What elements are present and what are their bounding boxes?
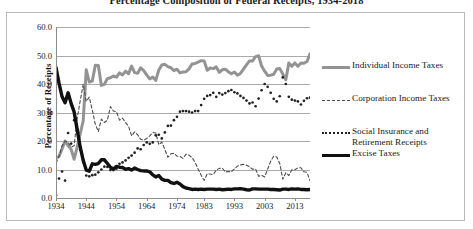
series-social-insurance-and-retirement-receipts bbox=[56, 76, 310, 196]
legend-line-solid-gray-icon bbox=[322, 66, 350, 69]
x-tick-label: 1944 bbox=[69, 201, 103, 211]
y-axis-line bbox=[56, 27, 57, 199]
x-tick-label: 1983 bbox=[187, 201, 221, 211]
legend-key-icon bbox=[322, 149, 352, 161]
legend-item[interactable]: Social Insurance and Retirement Receipts bbox=[322, 126, 429, 147]
y-tick-label: 30.0 bbox=[8, 109, 52, 117]
legend-label: Corporation Income Taxes bbox=[352, 93, 450, 104]
legend-line-dotted-icon bbox=[322, 132, 350, 134]
plot-area bbox=[56, 27, 310, 198]
series-excise-taxes bbox=[56, 67, 310, 190]
chart-legend: Individual Income TaxesCorporation Incom… bbox=[322, 60, 462, 170]
legend-label: Social Insurance and Retirement Receipts bbox=[352, 126, 429, 147]
x-tick-label: 1934 bbox=[39, 201, 73, 211]
y-tick-label: 50.0 bbox=[8, 52, 52, 60]
legend-item[interactable]: Corporation Income Taxes bbox=[322, 93, 450, 106]
x-axis-tick-labels: 193419441954196419741983199320032013 bbox=[56, 201, 310, 215]
legend-item[interactable]: Individual Income Taxes bbox=[322, 60, 443, 73]
legend-label: Individual Income Taxes bbox=[352, 60, 443, 71]
y-axis-tick-labels: 0.010.020.030.040.050.060.0 bbox=[4, 27, 52, 199]
x-tick-label: 2003 bbox=[248, 201, 282, 211]
y-tick-label: 60.0 bbox=[8, 23, 52, 31]
y-tick-label: 40.0 bbox=[8, 80, 52, 88]
series-individual-income-taxes bbox=[56, 54, 310, 159]
legend-key-icon bbox=[322, 127, 352, 139]
x-tick-label: 1993 bbox=[217, 201, 251, 211]
legend-label: Excise Taxes bbox=[352, 148, 400, 159]
legend-item[interactable]: Excise Taxes bbox=[322, 148, 400, 161]
series-corporation-income-taxes bbox=[56, 84, 310, 180]
x-tick-label: 1954 bbox=[99, 201, 133, 211]
legend-line-dashed-icon bbox=[322, 100, 350, 101]
data-series-layer bbox=[56, 27, 310, 198]
x-axis-line bbox=[56, 198, 310, 199]
x-tick-label: 1964 bbox=[130, 201, 164, 211]
legend-line-solid-black-icon bbox=[322, 154, 350, 157]
chart-root: Percentage Composition of Federal Receip… bbox=[0, 0, 473, 229]
legend-key-icon bbox=[322, 61, 352, 73]
chart-title: Percentage Composition of Federal Receip… bbox=[0, 0, 473, 6]
x-tick-label: 2013 bbox=[278, 201, 312, 211]
y-tick-label: 20.0 bbox=[8, 137, 52, 145]
legend-key-icon bbox=[322, 94, 352, 106]
y-tick-label: 10.0 bbox=[8, 166, 52, 174]
